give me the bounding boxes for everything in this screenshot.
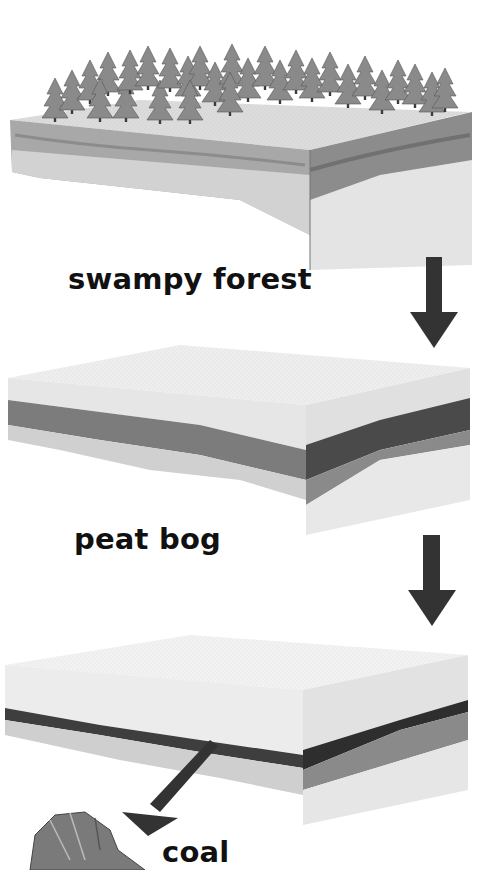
label-coal: coal — [162, 835, 229, 869]
arrow-down-icon — [410, 257, 458, 348]
coal-formation-diagram — [0, 0, 483, 870]
coal-lump-icon — [30, 812, 145, 870]
peat-bog-block — [8, 345, 470, 535]
coal-block — [5, 635, 468, 825]
arrow-down-icon — [408, 535, 456, 626]
label-peat-bog: peat bog — [74, 522, 221, 556]
swampy-forest-block — [10, 44, 472, 270]
label-swampy-forest: swampy forest — [68, 262, 312, 296]
